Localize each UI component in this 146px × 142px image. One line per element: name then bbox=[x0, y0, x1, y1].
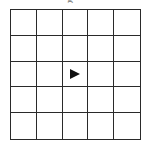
grid-cell-r3-c0 bbox=[11, 87, 37, 113]
grid-cell-r3-c2 bbox=[63, 87, 89, 113]
grid-cell-r2-c0 bbox=[11, 62, 37, 88]
grid-cell-r4-c1 bbox=[37, 113, 63, 139]
grid-cell-r0-c4 bbox=[114, 10, 140, 36]
grid-cell-r0-c3 bbox=[88, 10, 114, 36]
grid-cell-r4-c2 bbox=[63, 113, 89, 139]
grid-cell-r1-c1 bbox=[37, 36, 63, 62]
grid-cell-r2-c1 bbox=[37, 62, 63, 88]
caption-fragment: g bbox=[50, 0, 90, 3]
grid-cell-r3-c4 bbox=[114, 87, 140, 113]
grid-cell-r0-c1 bbox=[37, 10, 63, 36]
grid-cell-r3-c1 bbox=[37, 87, 63, 113]
grid-board bbox=[10, 9, 141, 140]
grid-cell-r3-c3 bbox=[88, 87, 114, 113]
grid-cell-r2-c2 bbox=[63, 62, 89, 88]
grid-cell-r4-c3 bbox=[88, 113, 114, 139]
grid-cell-r4-c4 bbox=[114, 113, 140, 139]
grid-cell-r0-c2 bbox=[63, 10, 89, 36]
grid-cell-r2-c3 bbox=[88, 62, 114, 88]
grid-cell-r1-c3 bbox=[88, 36, 114, 62]
grid-cell-r0-c0 bbox=[11, 10, 37, 36]
right-triangle-arrow-icon bbox=[69, 68, 81, 80]
grid-cell-r2-c4 bbox=[114, 62, 140, 88]
grid-cell-r1-c2 bbox=[63, 36, 89, 62]
grid-cell-r1-c0 bbox=[11, 36, 37, 62]
grid-cell-r1-c4 bbox=[114, 36, 140, 62]
grid-cell-r4-c0 bbox=[11, 113, 37, 139]
